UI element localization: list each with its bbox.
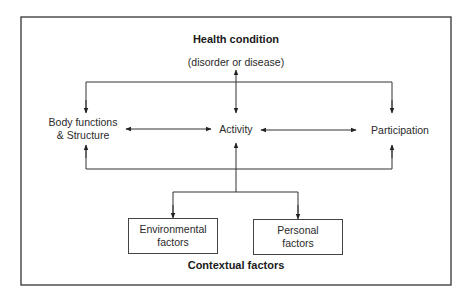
health-condition-subtitle: (disorder or disease) xyxy=(175,56,297,69)
body-line1: Body functions xyxy=(38,116,128,129)
node-environmental-factors: Environmental factors xyxy=(128,218,218,254)
node-personal-factors: Personal factors xyxy=(253,219,343,255)
node-participation: Participation xyxy=(360,124,440,137)
node-body-functions: Body functions & Structure xyxy=(38,116,128,142)
contextual-factors-label: Contextual factors xyxy=(180,259,292,272)
environmental-line2: factors xyxy=(139,236,206,249)
connector-top xyxy=(86,82,392,112)
node-activity: Activity xyxy=(211,123,261,136)
personal-line1: Personal xyxy=(277,224,318,237)
connector-bottom xyxy=(86,146,392,169)
body-line2: & Structure xyxy=(38,129,128,142)
health-condition-title: Health condition xyxy=(185,33,287,46)
environmental-line1: Environmental xyxy=(139,223,206,236)
connector-context-branch xyxy=(173,192,298,217)
personal-line2: factors xyxy=(277,237,318,250)
